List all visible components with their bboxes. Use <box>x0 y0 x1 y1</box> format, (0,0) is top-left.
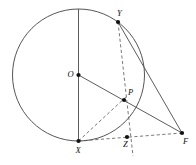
vertex-label-x: X <box>76 146 81 155</box>
geometry-canvas <box>0 0 196 165</box>
vertex-dot-x <box>76 139 80 143</box>
segment-X-to-P <box>79 96 128 141</box>
vertex-dot-o <box>76 73 80 77</box>
vertex-label-o: O <box>68 70 74 79</box>
vertex-label-y: Y <box>117 9 122 18</box>
vertex-label-z: Z <box>123 140 128 149</box>
vertex-dot-y <box>116 20 120 24</box>
geometry-figure: OYPXZF <box>0 0 196 165</box>
segment-O-to-F <box>79 75 183 133</box>
segments-layer <box>79 9 183 156</box>
vertex-label-f: F <box>183 137 188 146</box>
vertex-dot-p <box>122 98 126 102</box>
segment-Y-to-F <box>118 22 182 133</box>
vertex-label-p: P <box>128 88 133 97</box>
vertex-dot-f <box>180 131 184 135</box>
